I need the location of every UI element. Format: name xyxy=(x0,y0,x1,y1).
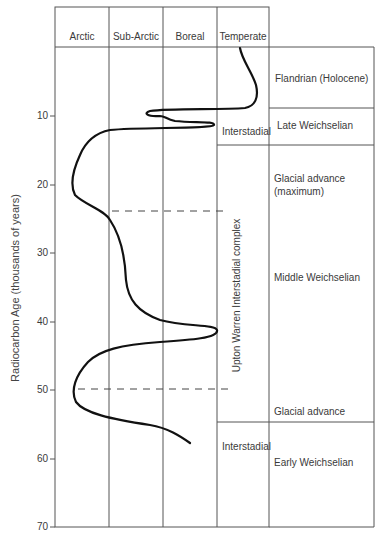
tick-60: 60 xyxy=(26,453,48,464)
zone-middle-weichselian: Middle Weichselian xyxy=(274,272,360,283)
header-boreal: Boreal xyxy=(163,31,217,42)
header-temperate: Temperate xyxy=(217,31,269,42)
tick-20: 20 xyxy=(26,179,48,190)
annotation-interstadial-late: Interstadial xyxy=(222,126,271,137)
zone-flandrian: Flandrian (Holocene) xyxy=(275,73,368,84)
zone-glacial-max-line2: (maximum) xyxy=(274,186,324,197)
zone-glacial-advance: Glacial advance xyxy=(274,406,345,417)
tick-30: 30 xyxy=(26,247,48,258)
annotation-interstadial-early: Interstadial xyxy=(222,441,271,452)
header-sub-arctic: Sub-Arctic xyxy=(109,31,163,42)
climate-curve xyxy=(73,48,257,443)
header-arctic: Arctic xyxy=(55,31,109,42)
zone-late-weichselian: Late Weichselian xyxy=(277,120,353,131)
tick-10: 10 xyxy=(26,110,48,121)
zone-early-weichselian: Early Weichselian xyxy=(274,457,353,468)
tick-70: 70 xyxy=(26,521,48,532)
tick-40: 40 xyxy=(26,316,48,327)
tick-50: 50 xyxy=(26,384,48,395)
annotation-upton-warren: Upton Warren Interstadial complex xyxy=(231,206,242,386)
zone-glacial-max-line1: Glacial advance xyxy=(274,173,345,184)
y-axis-label: Radiocarbon Age (thousands of years) xyxy=(9,163,21,413)
y-axis-ticks xyxy=(50,116,55,527)
